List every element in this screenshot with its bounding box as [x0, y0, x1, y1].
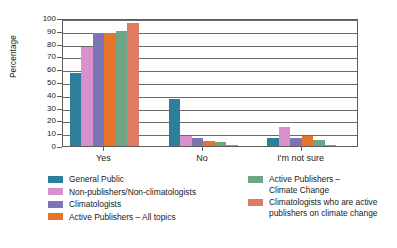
y-axis-tick-label: 50: [34, 79, 56, 87]
bar: [302, 136, 314, 146]
y-axis-tick-mark: [57, 19, 62, 20]
bar: [325, 145, 337, 146]
plot-area: [62, 19, 358, 147]
y-axis-tick-label: 20: [34, 117, 56, 125]
y-axis-tick-label: 40: [34, 92, 56, 100]
x-axis-tick-mark: [202, 147, 203, 151]
bars-layer: [63, 20, 357, 146]
legend-swatch-icon: [248, 199, 263, 206]
legend-label: Climatologists: [69, 199, 121, 210]
bar-group-i-m-not-sure: [267, 20, 336, 146]
y-axis-tick-mark: [57, 83, 62, 84]
y-axis-tick-mark: [57, 121, 62, 122]
x-axis-tick-label: Yes: [63, 153, 143, 163]
bar: [70, 73, 82, 146]
legend-entry[interactable]: Non-publishers/Non-climatologists: [48, 187, 223, 198]
legend-swatch-icon: [48, 213, 63, 220]
x-axis-tick-mark: [301, 147, 302, 151]
bar: [93, 33, 105, 146]
bar: [267, 138, 279, 146]
legend-swatch-icon: [48, 201, 63, 208]
y-axis-tick-label: 90: [34, 28, 56, 36]
y-axis-tick-label: 30: [34, 105, 56, 113]
bar: [226, 145, 238, 146]
legend-entry[interactable]: Climatologists who are active publishers…: [248, 197, 397, 218]
y-axis-tick-label: 80: [34, 41, 56, 49]
bar: [104, 33, 116, 146]
y-axis-tick-label: 100: [34, 15, 56, 23]
y-axis-tick-label: 70: [34, 53, 56, 61]
legend-swatch-icon: [48, 176, 63, 183]
x-axis-tick-label: No: [162, 153, 242, 163]
legend-label: Active Publishers – Climate Change: [269, 174, 340, 195]
bar: [215, 142, 227, 146]
bar: [169, 99, 181, 146]
bar: [127, 23, 139, 146]
y-axis-tick-label: 60: [34, 66, 56, 74]
bar: [81, 47, 93, 146]
x-axis-tick-mark: [103, 147, 104, 151]
y-axis-tick-mark: [57, 45, 62, 46]
y-axis-title: Percentage: [9, 22, 18, 92]
bar: [116, 31, 128, 146]
legend-label: General Public: [69, 174, 124, 185]
y-axis-tick-mark: [57, 134, 62, 135]
legend-label: Non-publishers/Non-climatologists: [69, 187, 196, 198]
y-axis-tick-mark: [57, 109, 62, 110]
bar: [313, 140, 325, 146]
legend-label: Climatologists who are active publishers…: [269, 197, 377, 218]
chart-figure: Percentage 0102030405060708090100 YesNoI…: [0, 0, 397, 248]
legend-entry[interactable]: Active Publishers – All topics: [48, 212, 223, 223]
y-axis-tick-label: 0: [34, 143, 56, 151]
chart-legend: General PublicNon-publishers/Non-climato…: [48, 174, 393, 244]
legend-swatch-icon: [48, 188, 63, 195]
legend-swatch-icon: [248, 176, 263, 183]
y-axis-tick-label: 10: [34, 130, 56, 138]
legend-label: Active Publishers – All topics: [69, 212, 176, 223]
bar: [203, 141, 215, 146]
legend-entry[interactable]: General Public: [48, 174, 223, 185]
bar-group-no: [169, 20, 238, 146]
legend-entry[interactable]: Climatologists: [48, 199, 223, 210]
bar: [180, 136, 192, 146]
y-axis-tick-mark: [57, 147, 62, 148]
y-axis-tick-mark: [57, 32, 62, 33]
legend-column-left: General PublicNon-publishers/Non-climato…: [48, 174, 223, 224]
x-axis-tick-label: I'm not sure: [261, 153, 341, 163]
legend-column-right: Active Publishers – Climate ChangeClimat…: [248, 174, 397, 220]
y-axis-tick-mark: [57, 96, 62, 97]
legend-entry[interactable]: Active Publishers – Climate Change: [248, 174, 397, 195]
y-axis-tick-mark: [57, 70, 62, 71]
y-axis-tick-mark: [57, 57, 62, 58]
bar: [290, 138, 302, 146]
bar-group-yes: [70, 20, 139, 146]
bar: [192, 138, 204, 146]
bar: [279, 127, 291, 146]
